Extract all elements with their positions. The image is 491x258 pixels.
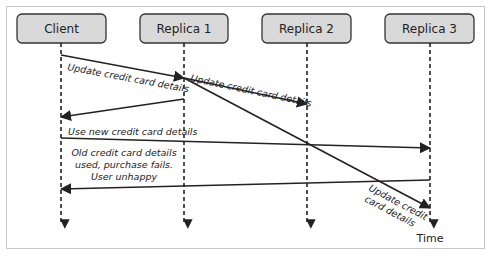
time-axis-label: Time — [416, 232, 444, 245]
message-label-purchase-fails: Old credit card details used, purchase f… — [71, 147, 176, 182]
sequence-diagram: Client Replica 1 Replica 2 Replica 3 Upd… — [0, 0, 491, 258]
svg-text:used, purchase fails.: used, purchase fails. — [75, 159, 173, 170]
svg-text:User unhappy: User unhappy — [91, 171, 158, 182]
participant-replica-3: Replica 3 — [385, 14, 474, 43]
svg-text:Old credit card details: Old credit card details — [71, 147, 176, 158]
participant-replica-1: Replica 1 — [140, 14, 228, 43]
participant-replica-2: Replica 2 — [262, 14, 351, 43]
participant-label: Client — [44, 22, 79, 36]
participant-label: Replica 2 — [279, 22, 334, 36]
message-label: Use new credit card details — [68, 126, 198, 137]
message-replica1-to-client — [61, 99, 184, 117]
participant-client: Client — [17, 14, 106, 43]
message-label-late-update: Update credit card details — [363, 182, 430, 229]
participant-label: Replica 1 — [157, 22, 212, 36]
message-label: Update credit card details — [67, 61, 190, 94]
participant-label: Replica 3 — [402, 22, 457, 36]
